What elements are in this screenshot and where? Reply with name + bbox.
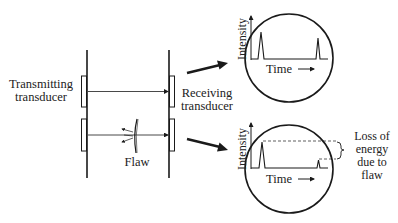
flaw-icon [122, 119, 138, 153]
label-line: transducer [174, 100, 240, 113]
receiving-transducer-label: Receiving transducer [174, 87, 240, 113]
scope-upper-y-label: Intensity [235, 18, 250, 60]
scope-upper [245, 14, 333, 102]
pointer-arrow-lower [187, 139, 228, 152]
flaw-label: Flaw [120, 156, 154, 169]
scope-upper-x-label: Time [266, 63, 292, 76]
scope-lower [245, 123, 336, 213]
transmitting-transducer-label: Transmitting transducer [2, 78, 80, 104]
loss-of-energy-label: Loss of energy due to flaw [346, 130, 398, 182]
scope-lower-y-label: Intensity [235, 128, 250, 170]
label-line: transducer [2, 91, 80, 104]
pointer-arrow-upper [187, 61, 228, 74]
transmitting-transducers [82, 76, 87, 151]
brace-icon [337, 142, 344, 159]
scope-lower-x-label: Time [266, 173, 292, 186]
label-line: flaw [346, 169, 398, 182]
